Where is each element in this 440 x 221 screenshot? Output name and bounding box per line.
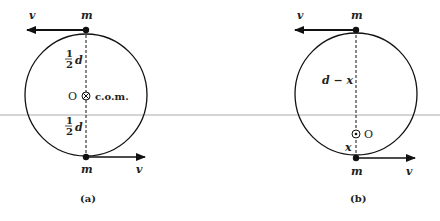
upper-fraction-num: 1 [66,48,73,59]
lower-distance-label: x [344,141,352,154]
upper-distance-label: d − x [322,74,354,87]
upper-fraction-den: 2 [66,59,73,70]
panel-b: v m m v d − x O x (b) [295,9,417,204]
figure: v m m v 1 2 d O c.o.m. 1 2 d (a) v m m v… [0,0,440,221]
lower-fraction-den: 2 [66,126,73,137]
top-velocity-label: v [297,9,304,22]
top-mass-label: m [81,9,93,22]
bottom-velocity-label: v [406,165,413,178]
top-mass-label: m [351,9,363,22]
caption-b: (b) [350,193,366,204]
upper-distance-label: d [75,54,83,67]
lower-distance-label: d [75,121,83,134]
com-label: c.o.m. [95,91,129,102]
bottom-mass-label: m [81,163,93,176]
bottom-velocity-label: v [136,163,143,176]
lower-fraction-num: 1 [66,115,73,126]
panel-a: v m m v 1 2 d O c.o.m. 1 2 d (a) [25,9,147,204]
top-velocity-label: v [29,9,36,22]
origin-label: O [68,90,77,103]
bottom-mass-label: m [351,165,363,178]
caption-a: (a) [80,193,96,204]
origin-label: O [364,128,373,141]
